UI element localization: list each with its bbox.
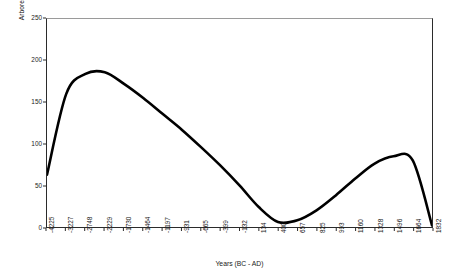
- x-tick-label: -931: [184, 220, 190, 233]
- x-tick-label: -1464: [145, 217, 151, 233]
- x-tick-label: -2229: [107, 217, 113, 233]
- x-tick-label: -4225: [49, 217, 55, 233]
- x-tick-label: 1664: [416, 219, 422, 233]
- x-tick-label: -1730: [126, 217, 132, 233]
- x-tick-label: -1197: [165, 217, 171, 233]
- x-tick-label: -3227: [68, 217, 74, 233]
- x-axis-tick-labels: -4225-3227-2748-2229-1730-1464-1197-931-…: [0, 0, 457, 280]
- x-tick-label: 825: [320, 222, 326, 233]
- x-tick-label: 134: [261, 222, 267, 233]
- x-tick-label: 993: [339, 222, 345, 233]
- x-tick-label: 1832: [436, 219, 442, 233]
- x-tick-label: -132: [242, 220, 248, 233]
- x-tick-label: 1160: [358, 219, 364, 233]
- x-tick-label: 400: [281, 222, 287, 233]
- x-tick-label: -2748: [87, 217, 93, 233]
- x-tick-label: 657: [300, 222, 306, 233]
- pollen-count-chart: Arboreal Pollen Count 050100150200250 -4…: [0, 0, 457, 280]
- x-axis-title: Years (BC - AD): [46, 260, 433, 267]
- x-tick-label: 1496: [397, 219, 403, 233]
- x-tick-label: -399: [223, 220, 229, 233]
- x-tick-label: 1328: [378, 219, 384, 233]
- x-tick-label: -665: [203, 220, 209, 233]
